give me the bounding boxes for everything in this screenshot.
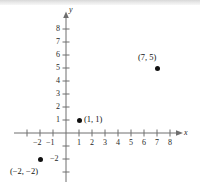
data-point-7-5 (155, 66, 160, 71)
y-tick-label-6: 6 (56, 51, 60, 59)
data-point-label-1-1: (1, 1) (84, 115, 102, 124)
x-tick-label--1: −1 (46, 139, 55, 147)
y-axis-label: y (69, 6, 73, 14)
x-tick-label-8: 8 (168, 139, 172, 147)
x-tick-label-2: 2 (90, 139, 94, 147)
x-tick-label-6: 6 (142, 139, 146, 147)
x-tick-label-3: 3 (103, 139, 107, 147)
y-tick-label-2: 2 (56, 103, 60, 111)
y-tick-label-5: 5 (56, 64, 60, 72)
x-tick-label-4: 4 (116, 139, 120, 147)
y-tick-label-8: 8 (56, 25, 60, 33)
y-tick-label-7: 7 (56, 38, 60, 46)
y-axis-arrowhead (63, 12, 69, 19)
scatter-plot: x y −2 −1 1 2 3 4 5 6 7 8 1 2 3 4 5 6 7 … (0, 0, 200, 188)
x-tick-label-7: 7 (155, 139, 159, 147)
x-axis-arrowhead (176, 130, 183, 136)
y-tick-label-4: 4 (56, 77, 60, 85)
data-point-1-1 (77, 118, 82, 123)
data-point-label-7-5: (7, 5) (138, 53, 156, 62)
coordinate-plane-figure: x y −2 −1 1 2 3 4 5 6 7 8 1 2 3 4 5 6 7 … (0, 0, 200, 188)
data-point--2--2 (38, 157, 43, 162)
axes-svg (0, 0, 200, 188)
data-point-label--2--2: (−2, −2) (10, 167, 38, 176)
x-tick-label-1: 1 (77, 139, 81, 147)
x-tick-label--2: −2 (33, 139, 42, 147)
x-axis-label: x (184, 129, 188, 137)
y-tick-label--2: −2 (50, 155, 59, 163)
y-tick-label-1: 1 (56, 116, 60, 124)
x-tick-label-5: 5 (129, 139, 133, 147)
y-tick-label-3: 3 (56, 90, 60, 98)
